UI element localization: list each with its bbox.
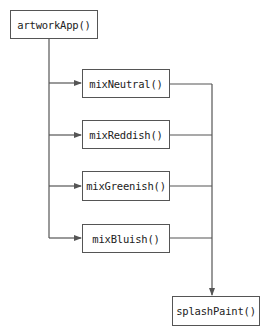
node-label: mixBluish() bbox=[92, 233, 159, 245]
node-label: splashPaint() bbox=[176, 305, 256, 317]
node-label: mixGreenish() bbox=[86, 180, 166, 192]
node-label: artworkApp() bbox=[17, 19, 90, 31]
node-label: mixNeutral() bbox=[89, 78, 162, 90]
node-splashpaint: splashPaint() bbox=[172, 296, 260, 326]
node-label: mixReddish() bbox=[89, 129, 162, 141]
node-mixreddish: mixReddish() bbox=[82, 120, 170, 149]
node-mixneutral: mixNeutral() bbox=[82, 69, 170, 98]
node-mixbluish: mixBluish() bbox=[82, 224, 170, 253]
node-artworkapp: artworkApp() bbox=[10, 10, 98, 39]
node-mixgreenish: mixGreenish() bbox=[82, 171, 170, 201]
connector-lines bbox=[0, 0, 271, 336]
